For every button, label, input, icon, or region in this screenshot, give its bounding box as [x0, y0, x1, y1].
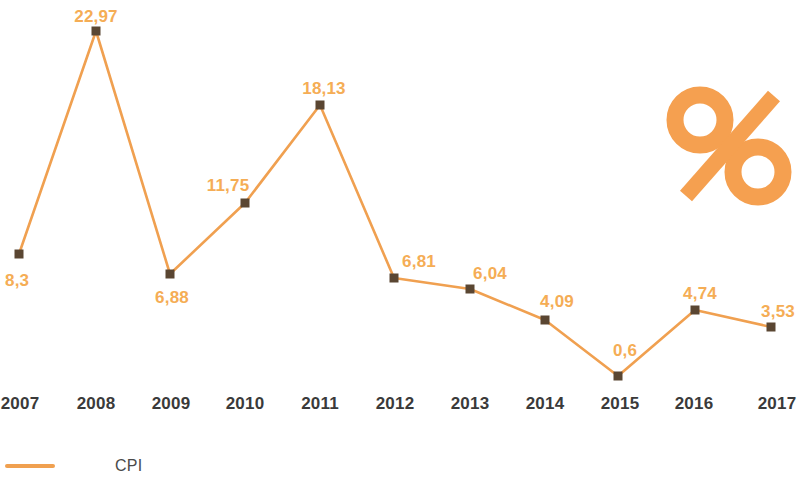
cpi-series-markers [15, 27, 776, 381]
x-tick-label-2014: 2014 [510, 393, 580, 415]
data-point-marker [614, 372, 623, 381]
data-point-marker [92, 27, 101, 36]
x-axis: 2007200820092010201120122013201420152016… [0, 393, 803, 423]
legend-item-cpi[interactable]: CPI [0, 452, 143, 479]
data-value-label: 11,75 [207, 177, 250, 194]
data-point-marker [390, 274, 399, 283]
data-value-label: 8,3 [5, 272, 29, 289]
legend-label-cpi: CPI [115, 457, 143, 475]
data-value-label: 18,13 [302, 80, 346, 97]
cpi-line-chart: 8,322,976,8811,7518,136,816,044,090,64,7… [0, 0, 803, 479]
x-tick-label-2010: 2010 [210, 393, 280, 415]
x-tick-label-2017: 2017 [742, 393, 803, 415]
data-point-marker [241, 199, 250, 208]
data-point-marker [15, 250, 24, 259]
data-value-label: 4,09 [540, 293, 574, 310]
x-tick-label-2015: 2015 [585, 393, 655, 415]
plot-area: 8,322,976,8811,7518,136,816,044,090,64,7… [0, 0, 803, 395]
data-value-label: 0,6 [613, 342, 637, 359]
data-point-marker [166, 270, 175, 279]
x-tick-label-2013: 2013 [435, 393, 505, 415]
data-value-label: 6,04 [473, 265, 507, 282]
x-tick-label-2008: 2008 [61, 393, 131, 415]
cpi-series-line [19, 31, 771, 376]
x-tick-label-2012: 2012 [360, 393, 430, 415]
data-point-marker [316, 101, 325, 110]
legend-swatch-cpi [5, 464, 55, 468]
data-point-marker [466, 285, 475, 294]
percent-symbol-icon [664, 84, 794, 208]
data-point-marker [767, 323, 776, 332]
data-value-label: 4,74 [683, 285, 717, 302]
data-value-label: 22,97 [74, 8, 118, 25]
data-point-marker [691, 306, 700, 315]
data-value-label: 6,88 [155, 289, 189, 306]
data-value-label: 3,53 [761, 303, 795, 320]
x-tick-label-2009: 2009 [136, 393, 206, 415]
x-tick-label-2016: 2016 [659, 393, 729, 415]
data-value-label: 6,81 [402, 253, 436, 270]
data-point-marker [541, 316, 550, 325]
chart-legend: CPI [0, 452, 803, 479]
x-tick-label-2011: 2011 [285, 393, 355, 415]
x-tick-label-2007: 2007 [0, 393, 55, 415]
